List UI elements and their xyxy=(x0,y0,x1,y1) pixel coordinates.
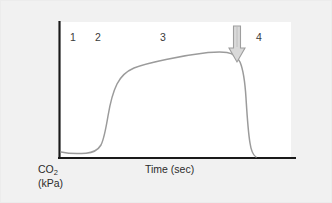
y-axis-label-line1: CO2 xyxy=(38,163,63,177)
co2-waveform-curve xyxy=(61,52,256,157)
y-axis-label-text: CO xyxy=(38,163,54,175)
phase-label-2: 2 xyxy=(95,32,101,43)
y-axis-label-units: (kPa) xyxy=(38,177,63,190)
down-arrow-marker xyxy=(229,26,245,62)
phase-label-1: 1 xyxy=(70,32,76,43)
y-axis-label: CO2 (kPa) xyxy=(38,163,63,190)
phase-label-4: 4 xyxy=(256,32,262,43)
x-axis-label-text: Time (sec) xyxy=(145,163,194,175)
capnography-figure: 1 2 3 4 Time (sec) CO2 (kPa) xyxy=(0,0,332,203)
phase-label-3: 3 xyxy=(160,32,166,43)
x-axis-label: Time (sec) xyxy=(145,163,194,175)
y-axis-label-subscript: 2 xyxy=(54,168,58,177)
